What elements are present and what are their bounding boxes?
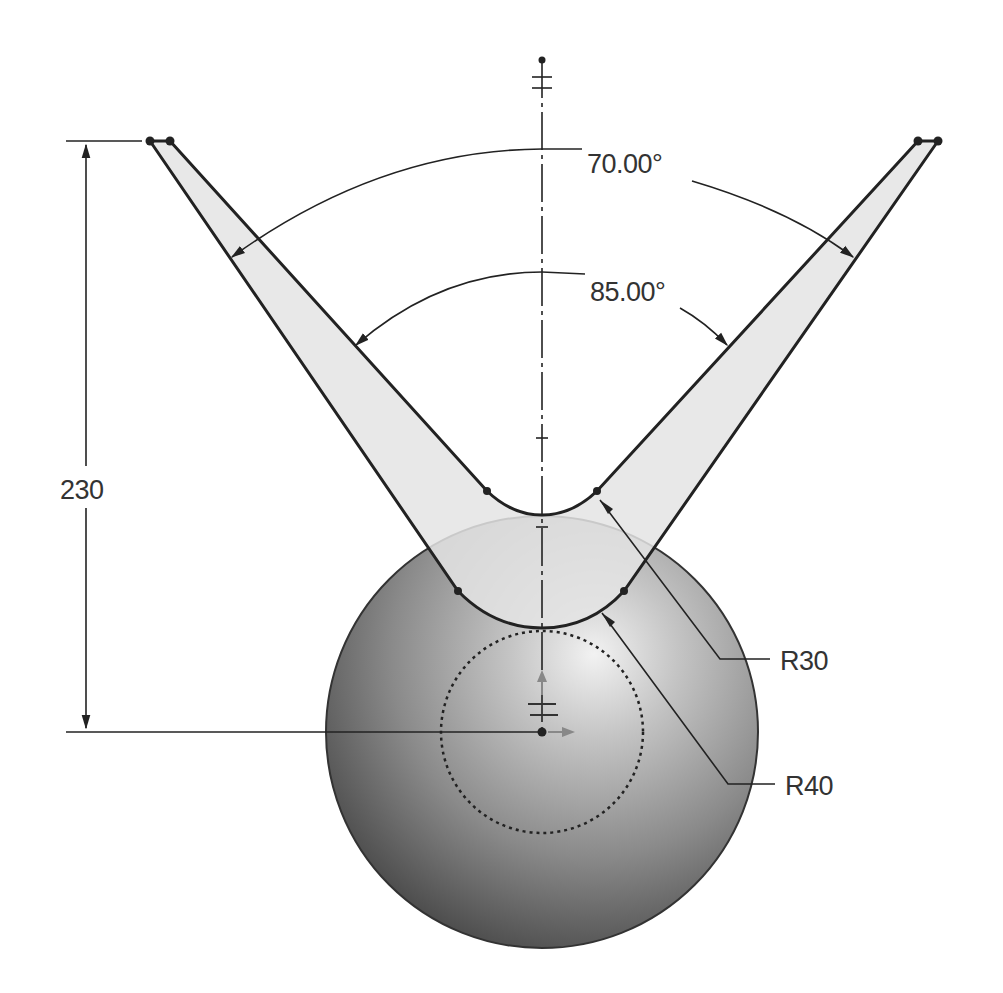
r40-value: R40 <box>785 771 833 801</box>
inner-angle-value: 85.00° <box>590 277 665 307</box>
height-value: 230 <box>60 475 104 505</box>
cad-sketch-canvas: 230 70.00° 85.00° R30 R40 <box>0 0 1003 993</box>
outer-angle-value: 70.00° <box>587 149 662 179</box>
v-block-profile[interactable] <box>146 137 943 629</box>
r30-value: R30 <box>780 646 828 676</box>
